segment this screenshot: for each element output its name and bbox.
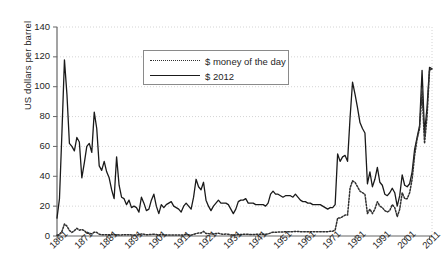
legend-swatch-solid-icon bbox=[150, 71, 200, 81]
y-tick-label: 40 bbox=[16, 170, 50, 181]
data-series-layer bbox=[57, 60, 432, 235]
y-tick-label: 60 bbox=[16, 140, 50, 151]
legend-item-money-of-the-day: $ money of the day bbox=[150, 54, 286, 68]
y-tick-label: 140 bbox=[16, 21, 50, 32]
legend-swatch-dotted-icon bbox=[150, 56, 200, 66]
oil-price-chart: US dollars per barrel 020406080100120140… bbox=[0, 0, 446, 278]
y-tick-label: 100 bbox=[16, 80, 50, 91]
legend-item-2012-dollars: $ 2012 bbox=[150, 69, 234, 83]
y-tick-label: 80 bbox=[16, 110, 50, 121]
legend-label: $ 2012 bbox=[205, 71, 234, 82]
y-tick-label: 20 bbox=[16, 200, 50, 211]
legend-label: $ money of the day bbox=[205, 56, 286, 67]
chart-legend: $ money of the day $ 2012 bbox=[143, 50, 289, 85]
series-line bbox=[57, 69, 432, 235]
y-tick-label: 120 bbox=[16, 50, 50, 61]
y-tick-label: 0 bbox=[16, 230, 50, 241]
